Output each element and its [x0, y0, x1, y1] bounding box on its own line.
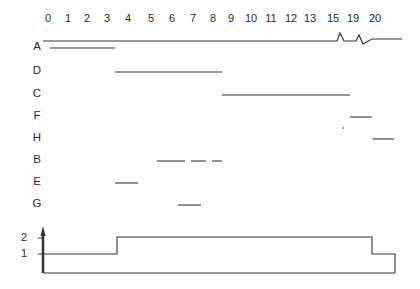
- profile-y-label: 2: [21, 232, 27, 243]
- profile-y-label: 1: [21, 248, 27, 259]
- time-axis-line: [43, 33, 402, 44]
- task-bars: [50, 48, 394, 205]
- resource-profile: [38, 226, 395, 273]
- profile-step-line: [43, 237, 395, 273]
- y-axis-arrow-icon: [41, 226, 46, 236]
- gantt-diagram: [0, 0, 420, 289]
